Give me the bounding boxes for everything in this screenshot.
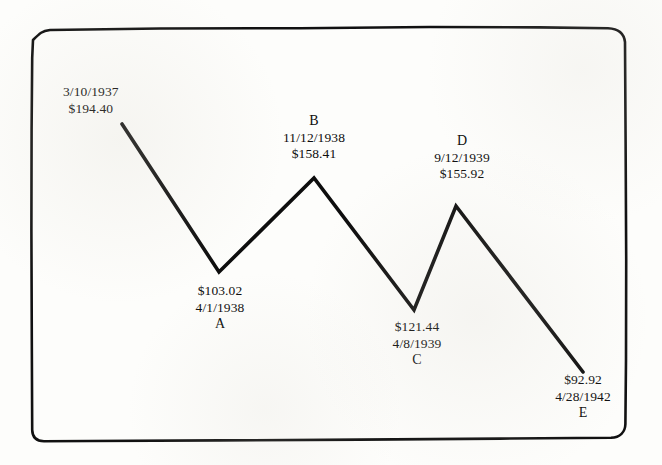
annotation-e-date: 4/28/1942 (535, 389, 631, 406)
annotation-b-price: $158.41 (262, 146, 366, 163)
annotation-e-letter: E (535, 405, 631, 422)
annotation-c-price: $121.44 (373, 319, 461, 336)
annotation-point-e: $92.92 4/28/1942 E (535, 372, 631, 422)
annotation-point-a: $103.02 4/1/1938 A (176, 283, 264, 333)
annotation-d-letter: D (414, 133, 510, 150)
annotation-d-price: $155.92 (414, 166, 510, 183)
annotation-c-date: 4/8/1939 (373, 336, 461, 353)
annotation-b-date: 11/12/1938 (262, 130, 366, 147)
annotation-b-letter: B (262, 113, 366, 130)
annotation-d-date: 9/12/1939 (414, 150, 510, 167)
annotation-a-price: $103.02 (176, 283, 264, 300)
annotation-point-c: $121.44 4/8/1939 C (373, 319, 461, 369)
annotation-e-price: $92.92 (535, 372, 631, 389)
annotation-a-letter: A (176, 316, 264, 333)
annotation-start-date: 3/10/1937 (63, 84, 119, 101)
annotation-point-d: D 9/12/1939 $155.92 (414, 133, 510, 183)
annotation-a-date: 4/1/1938 (176, 300, 264, 317)
scanned-chart-page: 3/10/1937 $194.40 $103.02 4/1/1938 A B 1… (0, 0, 662, 465)
annotation-point-b: B 11/12/1938 $158.41 (262, 113, 366, 163)
annotation-start: 3/10/1937 $194.40 (63, 84, 119, 117)
annotation-start-price: $194.40 (63, 101, 119, 118)
annotation-c-letter: C (373, 352, 461, 369)
